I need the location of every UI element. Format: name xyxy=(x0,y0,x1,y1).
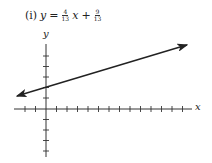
coordinate-plane xyxy=(0,0,212,163)
left-arrow-icon xyxy=(17,92,30,96)
right-arrow-icon xyxy=(180,45,187,47)
plotted-line xyxy=(30,47,180,92)
